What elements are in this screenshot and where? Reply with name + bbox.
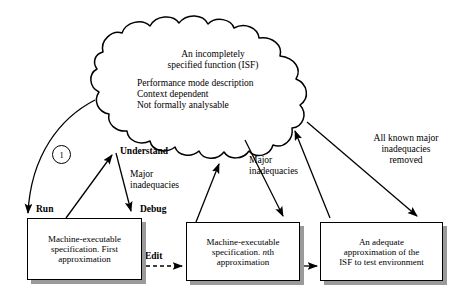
box2-line2: specification. nth — [187, 247, 299, 257]
label-all-known-line2: inadequacies — [354, 144, 458, 155]
box2-line2-post: th — [267, 247, 274, 257]
label-run: Run — [36, 204, 53, 215]
marker-one-label: 1 — [59, 150, 63, 160]
box2-line3: approximation — [187, 257, 299, 267]
diagram-canvas: An incompletely specified function (ISF)… — [0, 0, 465, 298]
box-first-approximation-text: Machine-executable specification. First … — [28, 234, 141, 264]
box3-line2: approximation of the — [321, 247, 442, 257]
label-major-inadequacies-1-line2: inadequacies — [130, 180, 179, 191]
cloud-title-line1: An incompletely — [148, 49, 278, 60]
box1-line1: Machine-executable — [28, 234, 141, 244]
marker-one: 1 — [52, 145, 71, 164]
label-major-inadequacies-2-line2: inadequacies — [249, 166, 298, 177]
label-understand: Understand — [120, 146, 168, 157]
label-all-known-line3: removed — [354, 155, 458, 166]
label-all-known-line1: All known major — [354, 133, 458, 144]
cloud-body-line3: Not formally analysable — [137, 100, 229, 111]
cloud-body-line1: Performance mode description — [137, 78, 254, 89]
label-major-inadequacies-2-line1: Major — [249, 155, 272, 166]
box2-line2-pre: specification. — [212, 247, 262, 257]
box-nth-approximation-text: Machine-executable specification. nth ap… — [187, 237, 299, 267]
arrow-box3-to-cloud — [295, 131, 330, 218]
box-nth-approximation[interactable]: Machine-executable specification. nth ap… — [186, 222, 300, 281]
box-first-approximation[interactable]: Machine-executable specification. First … — [27, 218, 142, 280]
box-adequate-approximation[interactable]: An adequate approximation of the ISF to … — [320, 222, 443, 281]
label-debug: Debug — [140, 204, 166, 215]
box3-line1: An adequate — [321, 237, 442, 247]
arrow-box2-to-cloud — [196, 164, 219, 222]
label-major-inadequacies-1-line1: Major — [130, 169, 153, 180]
box1-line2: specification. First — [28, 244, 141, 254]
box2-line1: Machine-executable — [187, 237, 299, 247]
label-edit: Edit — [145, 251, 162, 262]
cloud-body-line2: Context dependent — [137, 89, 209, 100]
arrow-understand — [66, 155, 112, 218]
box3-line3: ISF to test environment — [321, 257, 442, 267]
arrow-debug — [116, 153, 131, 211]
cloud-title-line2: specified function (ISF) — [148, 60, 278, 71]
box1-line3: approximation — [28, 254, 141, 264]
box-adequate-approximation-text: An adequate approximation of the ISF to … — [321, 237, 442, 267]
